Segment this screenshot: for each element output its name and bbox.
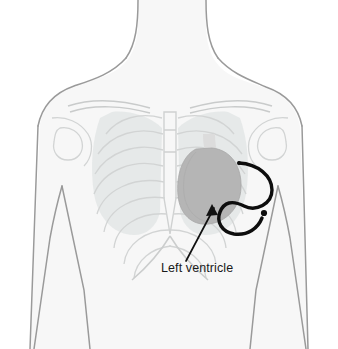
catheter-tip: [261, 210, 267, 216]
catheter-proximal-end: [237, 161, 241, 165]
anatomical-figure: Left ventricle: [0, 0, 338, 349]
right-lung: [92, 112, 162, 235]
left-ventricle-label: Left ventricle: [161, 261, 233, 275]
anatomy-illustration: Left ventricle: [0, 0, 338, 349]
